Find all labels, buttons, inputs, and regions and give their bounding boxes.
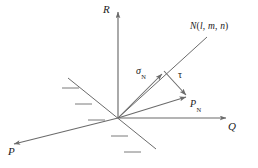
- vector-label-sigma-N: σN: [136, 66, 146, 79]
- plane-trace-hatching: [62, 88, 141, 152]
- vector-label-N: N(l, m, n): [190, 22, 228, 32]
- vector-label-N-arg-m: m: [208, 21, 215, 31]
- stress-vector-diagram: R Q P N(l, m, n) σN τ PN: [0, 0, 258, 168]
- sigma-subscript: N: [141, 73, 146, 80]
- vector-label-tau: τ: [178, 70, 182, 80]
- axis-label-R: R: [103, 4, 110, 15]
- vector-line-tau: [164, 71, 186, 95]
- axis-label-P: P: [8, 146, 15, 157]
- vector-label-P-N: PN: [190, 99, 201, 112]
- axis-line-P: [14, 118, 118, 144]
- p-subscript: N: [196, 106, 201, 113]
- vector-label-N-close-paren: ): [225, 21, 228, 31]
- plane-trace-line: [68, 78, 156, 149]
- axis-label-Q: Q: [228, 121, 236, 132]
